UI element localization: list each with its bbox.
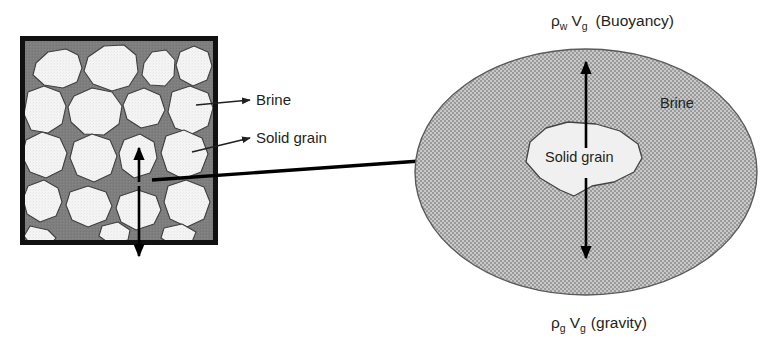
grain: [164, 180, 210, 227]
v-symbol-top: V: [571, 12, 582, 29]
ellipse-brine-label: Brine: [660, 95, 694, 111]
grain: [168, 86, 213, 134]
solid-grain-label: Solid grain: [256, 129, 327, 146]
grain: [66, 186, 112, 227]
magnified-grain-ellipse: Brine Solid grain: [415, 49, 757, 295]
brine-label: Brine: [256, 91, 291, 108]
rho-subscript-top: w: [559, 20, 568, 32]
equation-buoyancy: ρwVg(Buoyancy): [551, 12, 674, 32]
figure-root: Brine Solid grain Brine Solid grain: [0, 0, 769, 346]
magnified-grain-label: Solid grain: [545, 149, 614, 165]
v-subscript-top: g: [582, 20, 588, 32]
grain: [70, 134, 117, 182]
rho-symbol-bottom: ρ: [551, 314, 560, 331]
rho-symbol-top: ρ: [551, 12, 560, 29]
svg-text:ρgVg(gravity): ρgVg(gravity): [551, 314, 647, 334]
grain: [176, 46, 212, 86]
equation-gravity: ρgVg(gravity): [551, 314, 647, 334]
porous-medium-square: [20, 36, 218, 256]
grain: [161, 130, 208, 179]
svg-text:ρwVg(Buoyancy): ρwVg(Buoyancy): [551, 12, 674, 32]
v-subscript-bottom: g: [580, 322, 586, 334]
v-symbol-bottom: V: [570, 314, 581, 331]
diagram-canvas: Brine Solid grain Brine Solid grain: [0, 0, 769, 346]
buoyancy-paren-label: (Buoyancy): [596, 12, 674, 29]
grain: [24, 86, 66, 133]
gravity-paren-label: (gravity): [591, 314, 647, 331]
rho-subscript-bottom: g: [560, 322, 566, 334]
